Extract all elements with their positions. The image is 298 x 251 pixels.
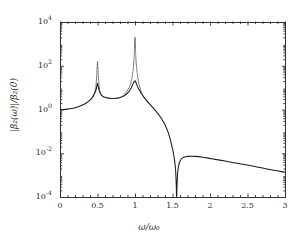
chart-background <box>0 0 298 251</box>
x-axis-title: ω/ω₀ <box>0 222 298 232</box>
figure-canvas: 10-410-2100102104 00.511.522.53 ω/ω₀ |β₂… <box>0 0 298 251</box>
y-axis-title: |β₂(ω)|/β₂(0) <box>9 45 19 165</box>
x-tick-label: 1 <box>120 201 150 210</box>
x-tick-label: 1.5 <box>158 201 188 210</box>
x-tick-label: 0.5 <box>83 201 113 210</box>
x-tick-label: 3 <box>270 201 298 210</box>
x-tick-label: 0 <box>45 201 75 210</box>
y-tick-label: 104 <box>0 17 57 26</box>
y-tick-label: 10-4 <box>0 192 57 201</box>
chart-plot-area <box>0 0 298 251</box>
x-tick-label: 2.5 <box>233 201 263 210</box>
x-tick-label: 2 <box>195 201 225 210</box>
